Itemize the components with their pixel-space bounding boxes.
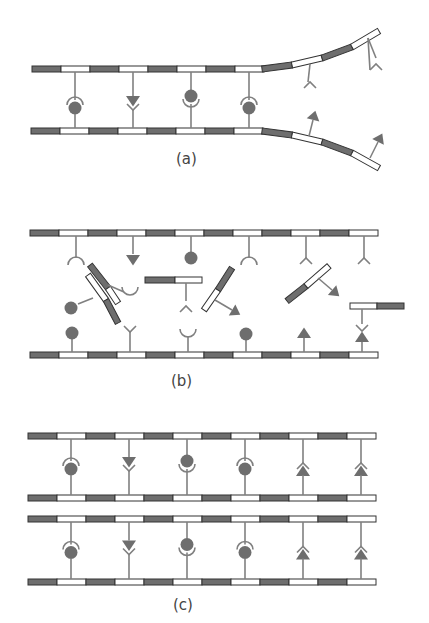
- dark-segment: [318, 433, 347, 439]
- dark-segment: [86, 516, 115, 522]
- dark-segment: [205, 128, 234, 134]
- dark-segment: [260, 516, 289, 522]
- dark-segment: [318, 516, 347, 522]
- fork-shape: [370, 64, 382, 70]
- dark-segment: [31, 128, 60, 134]
- light-segment: [350, 303, 377, 309]
- dark-segment: [145, 277, 175, 283]
- light-segment: [289, 495, 318, 501]
- arrow-free-2: [318, 278, 339, 296]
- light-segment: [115, 495, 144, 501]
- light-segment: [119, 66, 148, 72]
- panel-b: [30, 230, 404, 358]
- dark-segment: [262, 62, 293, 72]
- dark-segment: [86, 433, 115, 439]
- light-segment: [347, 433, 376, 439]
- duplex-2-top-strand: [28, 516, 376, 522]
- dark-segment: [146, 230, 175, 236]
- dark-segment: [262, 128, 293, 138]
- dark-segment: [28, 516, 57, 522]
- dark-segment: [148, 66, 177, 72]
- fork-shape: [358, 258, 370, 264]
- bottom-strand-curve: [262, 128, 381, 171]
- circle-shape: [240, 328, 253, 341]
- light-segment: [234, 128, 263, 134]
- light-segment: [350, 28, 380, 49]
- circle-shape: [69, 102, 82, 115]
- dark-segment: [202, 579, 231, 585]
- replication-diagram: [0, 0, 429, 623]
- fork-shape: [124, 326, 136, 332]
- light-segment: [57, 516, 86, 522]
- circle-shape: [181, 538, 194, 551]
- light-segment: [291, 352, 320, 358]
- arrow-2: [370, 133, 384, 158]
- triangle-shape: [297, 327, 311, 338]
- light-segment: [115, 579, 144, 585]
- light-segment: [202, 288, 221, 311]
- arrow-1: [307, 111, 320, 136]
- dark-segment: [204, 352, 233, 358]
- circle-shape: [66, 327, 79, 340]
- triangle-shape: [126, 255, 140, 266]
- cup-shape: [68, 257, 84, 265]
- light-segment: [175, 277, 202, 283]
- dark-segment: [86, 495, 115, 501]
- dark-segment: [89, 128, 118, 134]
- arrowhead: [328, 285, 339, 296]
- light-segment: [231, 495, 260, 501]
- top-strand-curve: [262, 28, 381, 72]
- light-segment: [291, 230, 320, 236]
- light-segment: [177, 66, 206, 72]
- dark-segment: [262, 230, 291, 236]
- panel-c: [28, 433, 376, 585]
- light-segment: [347, 516, 376, 522]
- light-segment: [351, 150, 381, 170]
- dark-segment: [144, 495, 173, 501]
- duplex-1-bottom-strand: [28, 495, 376, 501]
- light-segment: [175, 352, 204, 358]
- light-segment: [175, 230, 204, 236]
- light-segment: [61, 66, 90, 72]
- stalk: [309, 120, 313, 136]
- stalk: [308, 64, 310, 82]
- light-segment: [304, 264, 331, 289]
- fork-shape: [300, 258, 312, 264]
- triangle-shape: [355, 331, 369, 342]
- dark-segment: [202, 433, 231, 439]
- light-segment: [291, 132, 322, 145]
- light-segment: [231, 579, 260, 585]
- bottom-strand: [31, 128, 263, 134]
- light-segment: [235, 66, 264, 72]
- cup-shape: [180, 329, 196, 337]
- dark-segment: [318, 579, 347, 585]
- dark-segment: [28, 433, 57, 439]
- dark-segment: [30, 230, 59, 236]
- panel-b-label: (b): [171, 372, 192, 390]
- panel-a-label: (a): [176, 150, 197, 168]
- dark-segment: [28, 495, 57, 501]
- light-segment: [289, 516, 318, 522]
- light-segment: [173, 579, 202, 585]
- dark-segment: [144, 433, 173, 439]
- light-segment: [289, 433, 318, 439]
- dark-segment: [215, 266, 234, 291]
- dark-segment: [32, 66, 61, 72]
- light-segment: [117, 352, 146, 358]
- dark-segment: [377, 303, 404, 309]
- arrowhead: [307, 111, 320, 122]
- circle-shape: [239, 546, 252, 559]
- dark-segment: [88, 230, 117, 236]
- dark-segment: [202, 516, 231, 522]
- dark-segment: [206, 66, 235, 72]
- dark-segment: [144, 579, 173, 585]
- light-segment: [231, 516, 260, 522]
- dark-segment: [202, 495, 231, 501]
- panel-a: [31, 28, 384, 170]
- light-segment: [173, 495, 202, 501]
- dark-segment: [90, 66, 119, 72]
- arrow-free-1: [215, 300, 240, 316]
- dark-segment: [204, 230, 233, 236]
- dark-segment: [144, 516, 173, 522]
- stalk: [318, 278, 332, 290]
